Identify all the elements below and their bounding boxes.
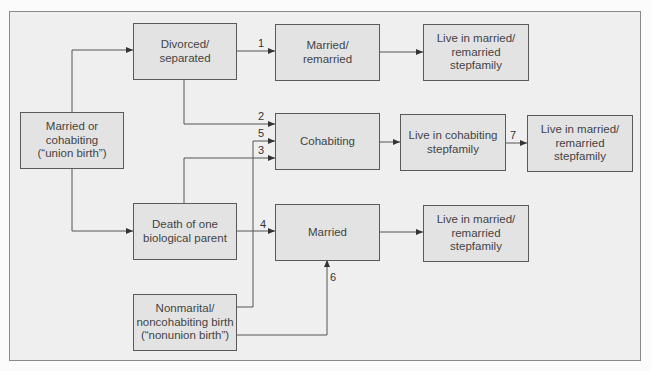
node-live-married-stepfamily-3: Live in married/ remarried stepfamily [423,205,529,262]
edge-label-1: 1 [258,37,264,49]
edge-label-4: 4 [260,218,266,230]
edge-label-2: 2 [258,110,264,122]
node-cohabiting: Cohabiting [275,113,380,170]
node-union-birth: Married or cohabiting (“union birth”) [20,112,124,169]
edge-label-6: 6 [330,271,336,283]
node-death-of-parent: Death of one biological parent [133,203,237,260]
node-live-married-stepfamily-2: Live in married/ remarried stepfamily [527,115,633,172]
edge-label-5: 5 [258,127,264,139]
node-married: Married [275,204,380,261]
node-live-cohabiting-stepfamily: Live in cohabiting stepfamily [400,114,506,171]
edge-label-7: 7 [510,129,516,141]
node-nonunion-birth: Nonmarital/ noncohabiting birth (“nonuni… [133,294,237,351]
edge-label-3: 3 [258,144,264,156]
node-married-remarried: Married/ remarried [275,24,380,81]
node-divorced-separated: Divorced/ separated [133,23,237,80]
node-live-married-stepfamily-1: Live in married/ remarried stepfamily [423,24,529,81]
